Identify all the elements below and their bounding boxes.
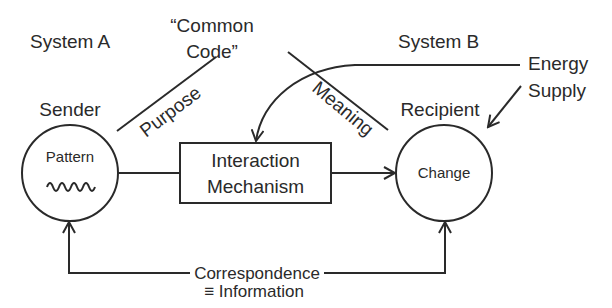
mechanism-label-line1: Interaction — [211, 150, 300, 171]
energy-label-line1: Energy — [528, 53, 589, 74]
energy-label-line2: Supply — [528, 80, 587, 101]
sender-circle — [22, 125, 118, 221]
mechanism-label-line2: Mechanism — [207, 176, 304, 197]
energy-supply-arrow — [488, 86, 521, 127]
change-label: Change — [418, 164, 471, 181]
communication-diagram: System A System B “Common Code” Purpose … — [0, 0, 612, 308]
system-b-label: System B — [398, 31, 479, 52]
sender-label: Sender — [39, 99, 101, 120]
correspondence-left-arrow — [69, 222, 190, 273]
system-a-label: System A — [30, 31, 111, 52]
pattern-label: Pattern — [46, 148, 94, 165]
recipient-label: Recipient — [400, 99, 480, 120]
correspondence-label-line1: Correspondence — [194, 264, 320, 283]
correspondence-right-arrow — [324, 222, 445, 273]
common-code-label-line1: “Common — [170, 15, 253, 36]
meaning-label: Meaning — [308, 77, 377, 140]
wave-icon — [47, 183, 95, 191]
correspondence-label-line2: ≡ Information — [204, 282, 304, 301]
